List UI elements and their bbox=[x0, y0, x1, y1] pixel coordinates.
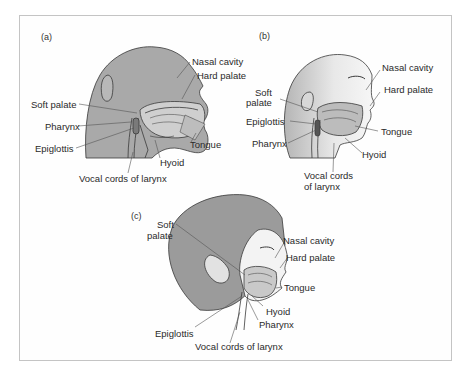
label-a-tongue: Tongue bbox=[190, 139, 221, 150]
label-b-hard-palate: Hard palate bbox=[384, 84, 433, 95]
panel-b-tag: (b) bbox=[259, 31, 270, 41]
label-c-nasal-cavity: Nasal cavity bbox=[283, 235, 334, 246]
label-c-epiglottis: Epiglottis bbox=[155, 328, 194, 339]
label-a-hyoid: Hyoid bbox=[160, 157, 184, 168]
head-b-illustration bbox=[284, 54, 374, 158]
label-c-vocal-cords: Vocal cords of larynx bbox=[195, 341, 283, 352]
panel-a-tag: (a) bbox=[41, 32, 52, 42]
label-a-hard-palate: Hard palate bbox=[197, 70, 246, 81]
label-c-hard-palate: Hard palate bbox=[286, 252, 335, 263]
label-b-hyoid: Hyoid bbox=[362, 149, 386, 160]
label-c-soft-palate-line1: Soft bbox=[157, 219, 174, 230]
label-a-epiglottis: Epiglottis bbox=[35, 143, 74, 154]
label-a-soft-palate: Soft palate bbox=[31, 99, 76, 110]
label-b-soft-palate-line2: palate bbox=[246, 97, 272, 108]
label-b-pharynx: Pharynx bbox=[252, 138, 287, 149]
label-a-vocal-cords: Vocal cords of larynx bbox=[79, 173, 167, 184]
label-c-hyoid: Hyoid bbox=[266, 306, 290, 317]
label-c-pharynx: Pharynx bbox=[259, 319, 294, 330]
label-c-tongue: Tongue bbox=[284, 282, 315, 293]
label-b-nasal-cavity: Nasal cavity bbox=[382, 62, 433, 73]
panel-c-tag: (c) bbox=[131, 211, 142, 221]
label-b-tongue: Tongue bbox=[381, 126, 412, 137]
label-b-epiglottis: Epiglottis bbox=[246, 116, 285, 127]
label-b-vocal-cords-line2: of larynx bbox=[304, 181, 340, 192]
label-a-nasal-cavity: Nasal cavity bbox=[192, 56, 243, 67]
label-c-soft-palate-line2: palate bbox=[147, 230, 173, 241]
label-a-pharynx: Pharynx bbox=[45, 121, 80, 132]
label-b-vocal-cords-line1: Vocal cords bbox=[304, 170, 353, 181]
